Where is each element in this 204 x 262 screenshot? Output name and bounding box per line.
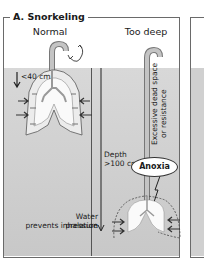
dead-space-label-1: Excessive dead space <box>150 63 159 145</box>
dead-space-label-2: or resistance <box>159 89 168 138</box>
anoxia-badge: Anoxia <box>131 157 178 177</box>
depth-arrow-shallow-icon <box>14 72 20 87</box>
pressure-label-2: prevents inhalation <box>24 221 98 230</box>
breath-arrow-icon <box>68 45 83 61</box>
deep-depth-label-1: Depth <box>104 150 127 159</box>
shallow-depth-label: <40 cm <box>21 72 51 81</box>
lungs-deep-icon <box>112 196 180 238</box>
